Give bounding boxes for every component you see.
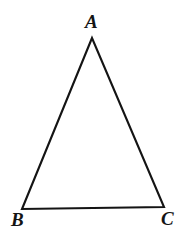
vertex-label-b: B <box>11 210 24 229</box>
geometry-figure: A B C <box>0 0 190 245</box>
vertex-label-c: C <box>161 209 174 228</box>
triangle-outline <box>22 38 164 209</box>
vertex-label-a: A <box>85 12 98 31</box>
